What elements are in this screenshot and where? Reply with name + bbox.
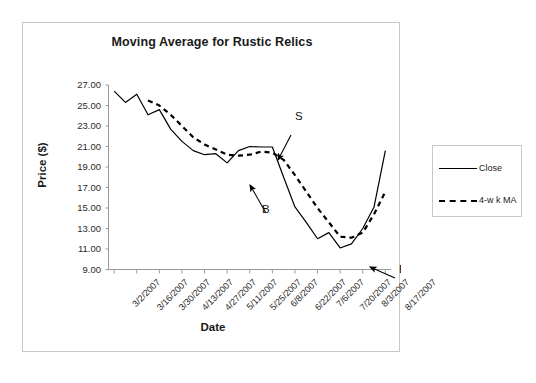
- annotation-layer: SBB: [250, 110, 401, 278]
- data-series-layer: [114, 91, 385, 248]
- legend-item-moving-average[interactable]: 4-w k MA: [433, 192, 523, 210]
- plot-area: SBB: [23, 23, 401, 353]
- annotation-label-sell-signal: S: [295, 110, 303, 122]
- annotation-arrow-sell-signal: [278, 135, 291, 160]
- legend-swatch-solid: [439, 168, 477, 171]
- annotation-arrow-buy-signal: [370, 267, 395, 278]
- axis-lines: [109, 85, 392, 270]
- series-line-close: [114, 91, 385, 248]
- series-line-moving-average: [148, 100, 385, 237]
- annotation-label-buy-signal: B: [399, 263, 401, 275]
- legend-swatch-dashed: [439, 200, 477, 204]
- chart-legend: Close 4-w k MA: [432, 145, 522, 217]
- legend-item-close[interactable]: Close: [433, 160, 523, 178]
- annotation-label-buy-signal: B: [262, 203, 270, 215]
- x-axis-ticks: [114, 270, 385, 274]
- legend-label-moving-average: 4-w k MA: [479, 195, 517, 205]
- legend-label-close: Close: [479, 163, 502, 173]
- chart-container: Moving Average for Rustic Relics Price (…: [22, 22, 400, 352]
